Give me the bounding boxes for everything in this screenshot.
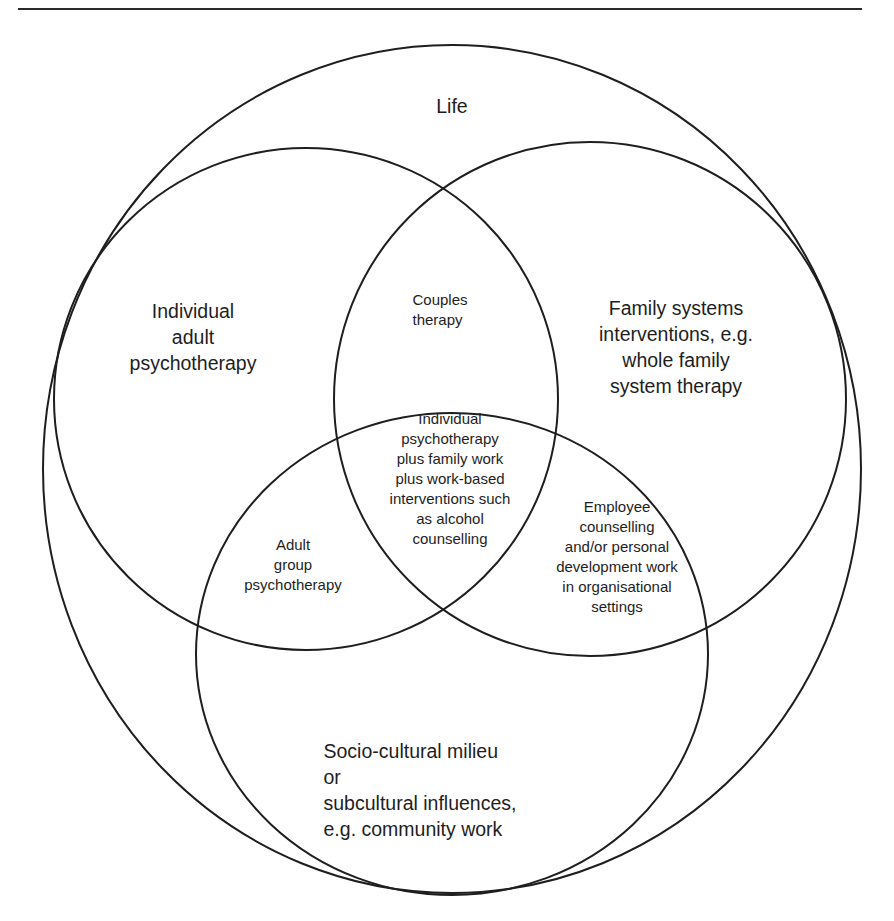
socio-label: Socio-cultural milieu or subcultural inf…: [324, 738, 517, 842]
individual-label: Individual adult psychotherapy: [130, 298, 257, 376]
life-label: Life: [436, 93, 467, 119]
couples-label: Couples therapy: [412, 290, 467, 330]
family-label: Family systems interventions, e.g. whole…: [599, 295, 753, 399]
center-label: Individual psychotherapy plus family wor…: [390, 409, 511, 549]
adult-group-label: Adult group psychotherapy: [244, 535, 342, 595]
employee-label: Employee counselling and/or personal dev…: [556, 497, 678, 617]
